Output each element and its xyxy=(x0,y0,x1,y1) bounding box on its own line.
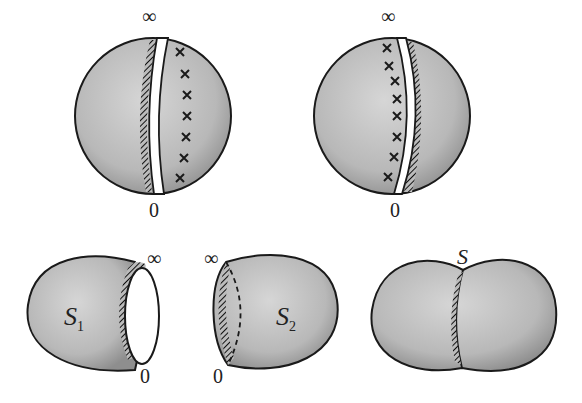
s1-label: S1 xyxy=(64,304,84,334)
s2-label: S2 xyxy=(276,304,296,334)
s2-infinity-label: ∞ xyxy=(204,248,218,268)
sphere-right xyxy=(314,38,470,194)
s1-zero-label: 0 xyxy=(140,366,150,386)
left-sphere-zero-label: 0 xyxy=(149,200,159,220)
right-sphere-infinity-label: ∞ xyxy=(381,6,395,26)
combined-surface xyxy=(371,260,556,371)
diagram-canvas xyxy=(0,0,582,403)
right-sphere-zero-label: 0 xyxy=(390,200,400,220)
s2-zero-label: 0 xyxy=(213,366,223,386)
s1-infinity-label: ∞ xyxy=(147,248,161,268)
combined-surface-label: S xyxy=(457,246,468,268)
left-sphere-infinity-label: ∞ xyxy=(142,6,156,26)
sphere-left xyxy=(75,38,231,194)
piece-s1 xyxy=(27,257,159,371)
